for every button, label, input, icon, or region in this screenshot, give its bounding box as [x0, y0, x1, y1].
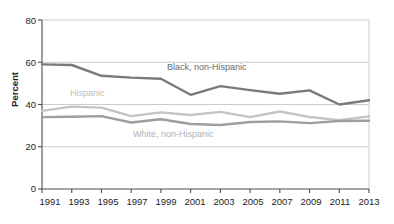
gridlines [42, 20, 369, 189]
series-label-hispanic: Hispanic [70, 88, 105, 98]
x-tick-label-2013: 2013 [352, 196, 386, 207]
y-tick-label-40: 40 [12, 99, 36, 110]
plot-area [0, 0, 394, 224]
y-tick-label-20: 20 [12, 141, 36, 152]
y-tick-label-60: 60 [12, 57, 36, 68]
series-label-white-non-hispanic: White, non-Hispanic [133, 129, 214, 139]
line-chart: Percent 80 60 40 20 0 1991 1993 1995 199… [0, 0, 394, 224]
series-line-hispanic [42, 107, 369, 121]
y-tick-label-0: 0 [12, 183, 36, 194]
series-label-black-non-hispanic: Black, non-Hispanic [167, 62, 247, 72]
y-tick-label-80: 80 [12, 15, 36, 26]
